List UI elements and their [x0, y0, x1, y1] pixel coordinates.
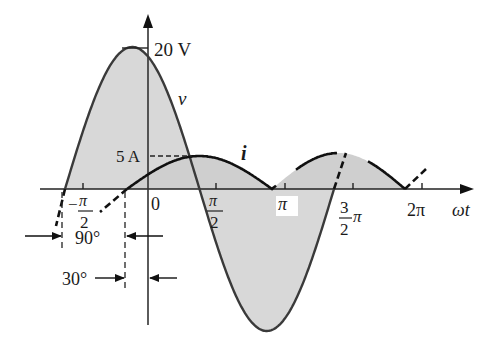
angle-30-label: 30°: [62, 269, 87, 289]
waveform-figure: 20 V v 5 A i 0 − π 2 π 2 π 3 2 π 2π ωt 9…: [0, 0, 497, 360]
y-axis-arrow-icon: [143, 14, 153, 28]
tick-label-neg-half-pi: − π 2: [68, 192, 93, 232]
x-axis-label: ωt: [452, 200, 471, 220]
i-peak-label: 5 A: [116, 147, 141, 166]
i-curve-label: i: [241, 142, 247, 164]
x-axis-arrow-icon: [460, 184, 474, 194]
svg-text:π: π: [353, 207, 362, 226]
origin-label: 0: [151, 194, 160, 214]
svg-text:2: 2: [340, 220, 349, 239]
tick-label-pi: π: [278, 194, 288, 214]
svg-text:−: −: [68, 195, 78, 214]
v-curve-label: v: [178, 88, 187, 109]
v-extension-left: [56, 189, 65, 226]
svg-text:3: 3: [340, 198, 349, 217]
angle-90-label: 90°: [75, 228, 100, 248]
v-peak-label: 20 V: [154, 39, 191, 60]
svg-text:π: π: [209, 192, 218, 209]
i-extension-right: [405, 169, 426, 189]
svg-text:2: 2: [210, 213, 219, 232]
tick-label-two-pi: 2π: [407, 200, 425, 220]
i-extension-left: [100, 189, 127, 212]
tick-label-half-pi: π 2: [206, 192, 226, 232]
svg-text:π: π: [79, 192, 88, 209]
